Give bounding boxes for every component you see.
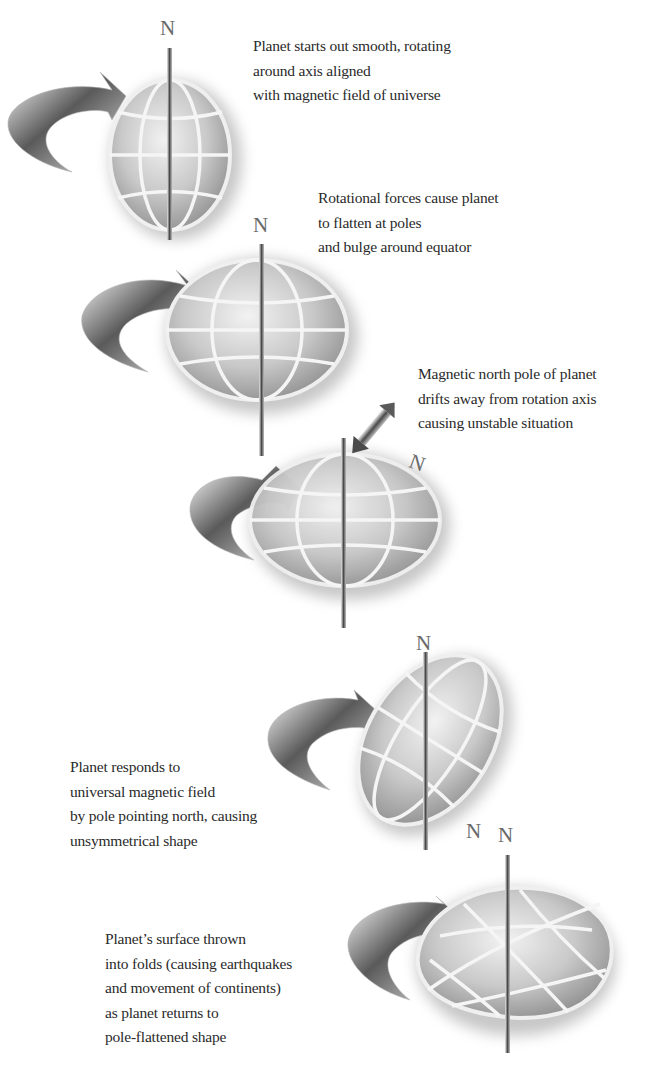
tilted-north-pole-label: N [406,449,428,477]
stage-2-globe: N [82,213,358,456]
stage-5-globe: N [348,823,616,1053]
stage-1-caption: Planet starts out smooth, rotating aroun… [253,34,451,108]
north-pole-label: N [416,631,431,655]
rotation-axis [259,244,264,456]
drift-double-arrow-icon [345,396,403,459]
diagram-artwork: N N N [0,0,654,1077]
stage-1-globe: N [8,16,242,240]
north-pole-label: N [253,213,268,237]
stage-2-caption: Rotational forces cause planet to flatte… [318,186,498,260]
rotation-axis [505,855,510,1053]
rotation-axis [167,48,172,240]
north-pole-label-lower: N [466,819,481,843]
stage-5-caption: Planet’s surface thrown into folds (caus… [105,927,292,1050]
stage-3-caption: Magnetic north pole of planet drifts awa… [418,362,596,436]
stage-4-caption: Planet responds to universal magnetic fi… [70,755,257,853]
stage-3-globe: N [190,396,450,628]
rotation-axis [423,652,428,850]
rotation-axis [341,438,346,628]
north-pole-label: N [498,823,513,847]
north-pole-label: N [160,16,175,40]
